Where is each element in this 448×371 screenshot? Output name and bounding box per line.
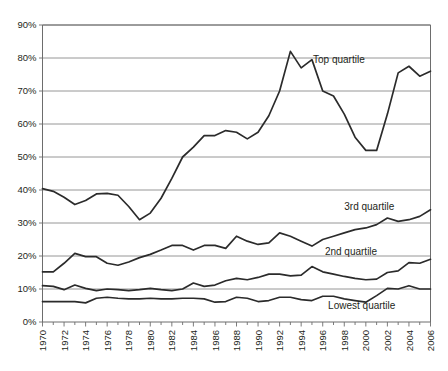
series-line-3rd-quartile: [43, 210, 431, 272]
y-axis-label-50%: 50%: [17, 151, 37, 162]
x-axis-label-1982: 1982: [166, 330, 177, 351]
x-axis-label-2006: 2006: [425, 330, 436, 351]
series-line-top-quartile: [43, 51, 431, 219]
x-axis-label-2000: 2000: [360, 330, 371, 351]
x-axis-label-1970: 1970: [37, 330, 48, 351]
y-axis-label-70%: 70%: [17, 85, 37, 96]
series-annotation-2nd-quartile: 2nd quartile: [325, 246, 378, 257]
x-axis-label-1974: 1974: [80, 330, 91, 351]
x-axis-label-1994: 1994: [296, 330, 307, 351]
x-axis-label-1972: 1972: [59, 330, 70, 351]
x-axis-label-1992: 1992: [274, 330, 285, 351]
series-annotation-top-quartile: Top quartile: [313, 54, 365, 65]
y-axis-label-90%: 90%: [17, 19, 37, 30]
x-axis-label-1988: 1988: [231, 330, 242, 351]
quartile-line-chart: 0%10%20%30%40%50%60%70%80%90% 1970197219…: [0, 0, 448, 371]
x-axis-label-1996: 1996: [317, 330, 328, 351]
series-line-2nd-quartile: [43, 259, 431, 290]
y-axis-label-0%: 0%: [23, 316, 37, 327]
x-axis-ticks: [43, 322, 431, 327]
x-axis-label-1984: 1984: [188, 330, 199, 351]
y-axis-ticks: [39, 25, 43, 322]
series-annotation-lowest-quartile: Lowest quartile: [328, 300, 396, 311]
x-axis-label-1980: 1980: [145, 330, 156, 351]
x-axis-labels: 1970197219741976197819801982198419861988…: [37, 330, 436, 351]
plot-frame: [43, 25, 431, 322]
plot-area-border: [43, 25, 431, 322]
y-axis-labels: 0%10%20%30%40%50%60%70%80%90%: [17, 19, 37, 327]
x-axis-label-1978: 1978: [123, 330, 134, 351]
x-axis-label-2004: 2004: [404, 330, 415, 351]
x-axis-label-1990: 1990: [253, 330, 264, 351]
y-axis-label-20%: 20%: [17, 250, 37, 261]
x-axis-label-1998: 1998: [339, 330, 350, 351]
y-axis-label-40%: 40%: [17, 184, 37, 195]
series-annotation-3rd-quartile: 3rd quartile: [344, 201, 394, 212]
y-axis-label-80%: 80%: [17, 52, 37, 63]
chart-container: 0%10%20%30%40%50%60%70%80%90% 1970197219…: [0, 0, 448, 371]
data-series-group: [43, 51, 431, 302]
x-axis-label-2002: 2002: [382, 330, 393, 351]
y-axis-label-30%: 30%: [17, 217, 37, 228]
x-axis-label-1976: 1976: [102, 330, 113, 351]
x-axis-label-1986: 1986: [210, 330, 221, 351]
y-axis-label-10%: 10%: [17, 283, 37, 294]
y-axis-label-60%: 60%: [17, 118, 37, 129]
